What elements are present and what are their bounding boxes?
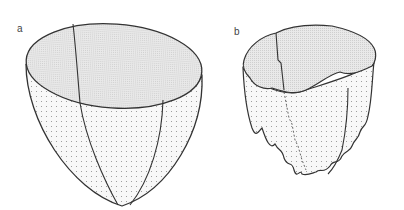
diagram-canvas	[0, 0, 404, 210]
panel-b-bowl	[243, 25, 376, 175]
panel-a-bowl	[23, 18, 204, 206]
